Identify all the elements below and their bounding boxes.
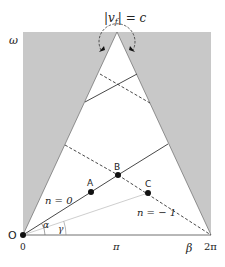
title-label: |vf| = c: [104, 11, 147, 26]
point-c: [145, 190, 151, 196]
point-a: [88, 189, 94, 195]
x-tick-0: 0: [20, 242, 26, 252]
alpha-label: α: [43, 220, 49, 230]
x-axis-label: β: [185, 242, 192, 255]
gamma-label: γ: [58, 224, 64, 234]
point-origin: [20, 232, 26, 238]
x-tick-2pi: 2π: [204, 241, 217, 252]
point-b-label: B: [114, 162, 120, 172]
y-axis-label: ω: [9, 34, 18, 47]
label-n0: n = 0: [45, 195, 73, 206]
point-b: [115, 172, 121, 178]
dispersion-diagram: |vf| = c ω β 0 π 2π O A B C n = 0 n = − …: [0, 0, 225, 267]
origin-label: O: [8, 229, 17, 242]
point-a-label: A: [87, 178, 94, 188]
label-n-minus-1: n = − 1: [137, 207, 176, 218]
point-c-label: C: [145, 179, 151, 189]
x-tick-pi: π: [112, 241, 120, 252]
